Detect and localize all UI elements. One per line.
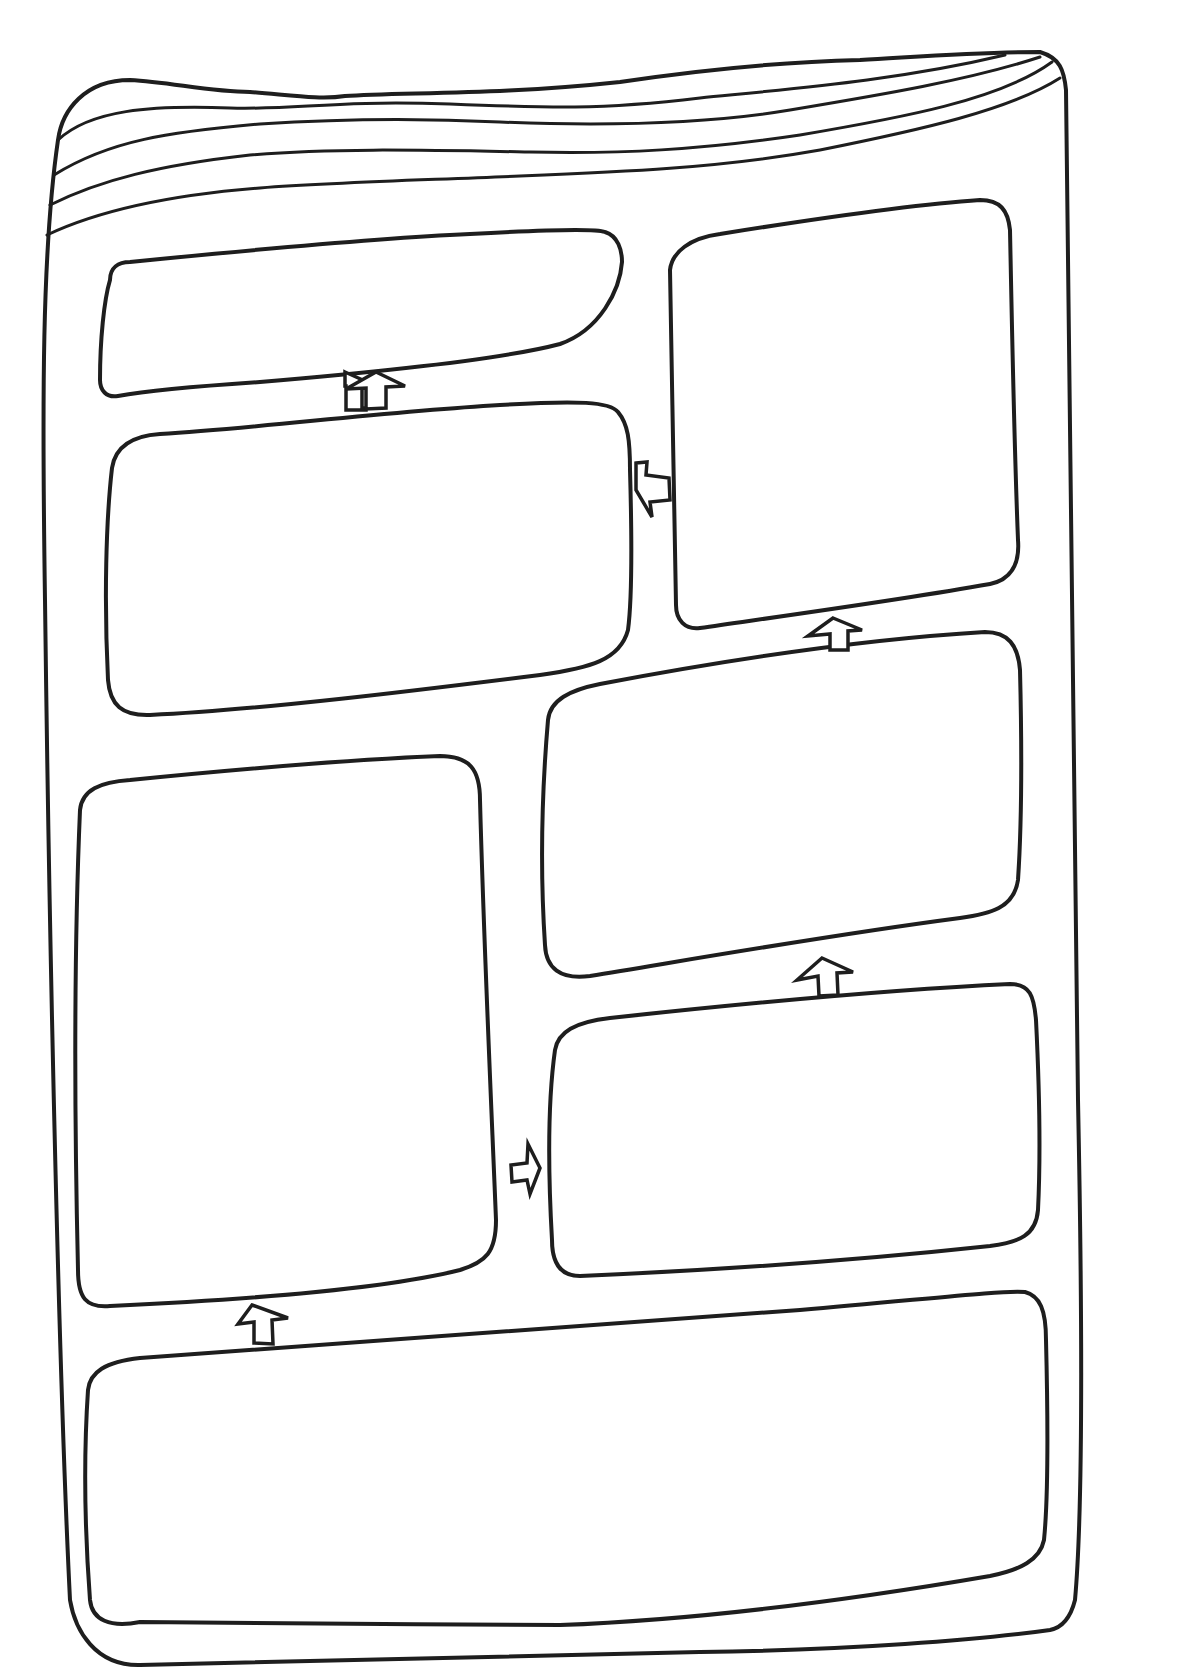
box-3 [670,200,1018,628]
frame-curl-line-4 [47,78,1060,235]
frame-outline [43,52,1081,1665]
frame-curl-line-2 [54,57,1040,175]
arrow-up-icon [797,958,853,996]
arrow-right-icon [511,1144,540,1194]
arrow-up-icon [238,1305,288,1344]
box-7 [85,1292,1047,1625]
outer-frame [43,52,1081,1665]
diagram-canvas [0,0,1182,1674]
box-5 [75,756,496,1306]
box-6 [549,984,1039,1276]
arrow-left-icon [636,462,670,517]
box-2 [106,402,631,715]
box-1 [100,230,622,396]
box-4 [542,632,1021,977]
